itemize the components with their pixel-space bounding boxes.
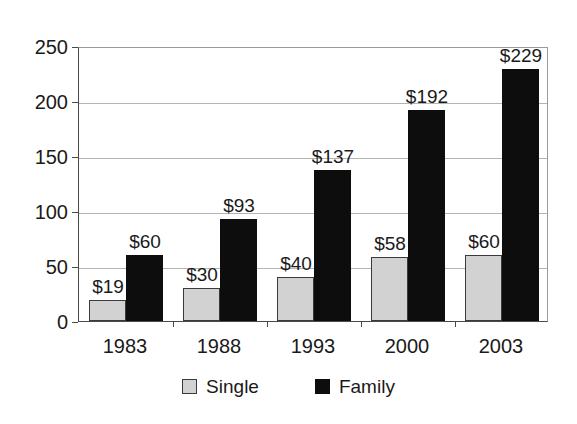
plot-area: $19$60$30$93$40$137$58$192$60$229	[78, 47, 548, 322]
y-axis-tick-label: 50	[0, 257, 68, 277]
bar-single[interactable]	[89, 300, 126, 321]
bar-value-label-family: $93	[204, 196, 274, 215]
bar-single[interactable]	[371, 257, 408, 321]
bar-family[interactable]	[314, 170, 351, 321]
legend-swatch-family-icon	[315, 379, 330, 394]
legend-label-single: Single	[206, 377, 259, 396]
bar-value-label-family: $192	[392, 87, 462, 106]
bar-group: $58$192	[361, 48, 455, 321]
bar-group: $60$229	[455, 48, 549, 321]
x-axis-tick-label: 2000	[360, 336, 454, 356]
bar-family[interactable]	[408, 110, 445, 321]
y-axis-tick-label: 100	[0, 202, 68, 222]
x-axis-tick-mark	[455, 321, 456, 327]
legend-item-family[interactable]: Family	[315, 377, 395, 396]
x-axis-tick-label: 2003	[454, 336, 548, 356]
y-axis-tick-label: 0	[0, 312, 68, 332]
bar-single[interactable]	[277, 277, 314, 321]
legend-label-family: Family	[339, 377, 395, 396]
bar-group: $40$137	[267, 48, 361, 321]
y-axis-tick-mark	[72, 322, 78, 323]
legend-swatch-single-icon	[182, 379, 197, 394]
bar-chart: 250200150100500 $19$60$30$93$40$137$58$1…	[0, 0, 577, 424]
bar-family[interactable]	[220, 219, 257, 321]
x-axis-tick-label: 1983	[78, 336, 172, 356]
x-axis-tick-label: 1993	[266, 336, 360, 356]
bar-value-label-family: $60	[110, 232, 180, 251]
bar-value-label-family: $137	[298, 147, 368, 166]
bar-group: $30$93	[173, 48, 267, 321]
x-axis-tick-mark	[267, 321, 268, 327]
chart-legend: Single Family	[0, 377, 577, 396]
y-axis-tick-label: 150	[0, 147, 68, 167]
legend-item-single[interactable]: Single	[182, 377, 259, 396]
x-axis-tick-mark	[361, 321, 362, 327]
y-axis-tick-label: 250	[0, 37, 68, 57]
bar-single[interactable]	[183, 288, 220, 321]
x-axis-tick-mark	[173, 321, 174, 327]
y-axis-tick-label: 200	[0, 92, 68, 112]
bar-single[interactable]	[465, 255, 502, 321]
x-axis-tick-label: 1988	[172, 336, 266, 356]
bar-family[interactable]	[502, 69, 539, 321]
bar-value-label-family: $229	[486, 46, 556, 65]
bar-group: $19$60	[79, 48, 173, 321]
bar-family[interactable]	[126, 255, 163, 321]
